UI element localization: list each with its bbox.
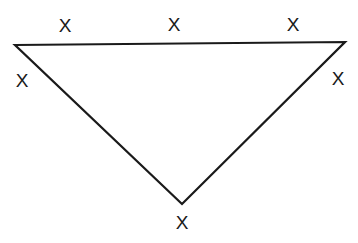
label-left-side: X bbox=[16, 70, 29, 91]
diagram-canvas: X X X X X X bbox=[0, 0, 358, 243]
triangle-shape bbox=[15, 42, 345, 204]
label-top-right: X bbox=[287, 14, 300, 35]
label-top-middle: X bbox=[168, 14, 181, 35]
label-right-side: X bbox=[332, 68, 345, 89]
label-top-left: X bbox=[59, 15, 72, 36]
label-bottom: X bbox=[176, 212, 189, 233]
triangle-diagram: X X X X X X bbox=[0, 0, 358, 243]
